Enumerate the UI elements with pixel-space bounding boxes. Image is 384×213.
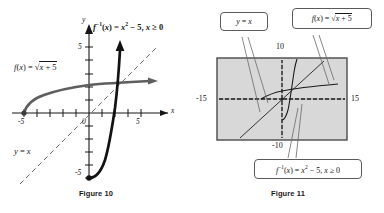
y-tick-label-neg5: -5 <box>75 168 81 177</box>
figure-11-caption: Figure 11 <box>192 189 384 198</box>
callout-identity-text: y = x <box>236 17 252 26</box>
callout-inverse-function-text: f−1(x) = x2 − 5, x ≥ 0 <box>276 164 340 175</box>
figure-10-caption: Figure 10 <box>0 189 192 198</box>
y-axis-name: y <box>82 15 85 24</box>
x-axis <box>12 109 168 117</box>
figure-11-panel: 10 -10 -15 15 y = x f(x) = √x + 5 f−1(x)… <box>192 0 384 213</box>
annotation-function-f: f(x) = √x + 5 <box>14 63 57 72</box>
callout-function-f-text: f(x) = √x + 5 <box>312 14 353 23</box>
screen-ymin-label: -10 <box>272 141 283 150</box>
inverse-function-curve <box>86 40 124 181</box>
y-tick-label-5: 5 <box>78 42 82 51</box>
x-tick-label-neg5: -5 <box>18 117 24 126</box>
x-tick-label-5: 5 <box>136 117 140 126</box>
screen-ymax-label: 10 <box>276 42 284 51</box>
figure-10-panel: y x 5 -5 -5 5 0 f−1(x) = x2 − 5, x ≥ 0 f… <box>0 0 192 213</box>
origin-label: 0 <box>82 117 86 126</box>
screen-xmax-label: 15 <box>351 94 359 103</box>
screen-xmin-label: -15 <box>196 94 207 103</box>
x-axis-name: x <box>171 106 174 115</box>
callout-function-f: f(x) = √x + 5 <box>292 8 372 29</box>
function-curve-f <box>21 78 158 116</box>
annotation-inverse-function: f−1(x) = x2 − 5, x ≥ 0 <box>93 22 163 31</box>
callout-inverse-function: f−1(x) = x2 − 5, x ≥ 0 <box>254 159 362 179</box>
annotation-identity-line: y = x <box>14 147 31 156</box>
callout-identity-line: y = x <box>220 12 268 31</box>
y-axis <box>85 24 93 178</box>
